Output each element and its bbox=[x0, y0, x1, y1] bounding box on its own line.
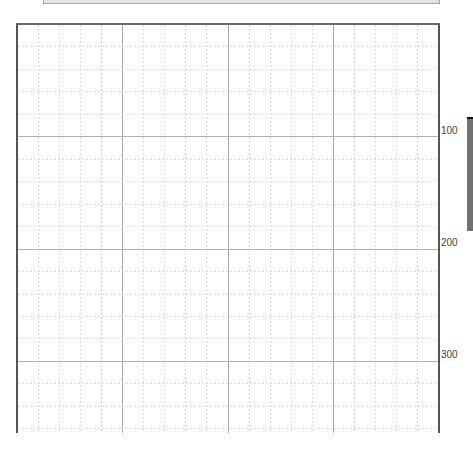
grid-minor-vline bbox=[417, 25, 418, 433]
grid-minor-vline bbox=[375, 25, 376, 433]
grid-minor-hline bbox=[18, 406, 438, 407]
grid-minor-hline bbox=[18, 69, 438, 70]
grid-major-hline bbox=[18, 136, 438, 137]
grid-minor-hline bbox=[18, 428, 438, 429]
grid-minor-vline bbox=[101, 25, 102, 433]
grid-minor-hline bbox=[18, 271, 438, 272]
top-toolbar-bar bbox=[43, 0, 440, 4]
grid-minor-hline bbox=[18, 46, 438, 47]
grid-minor-hline bbox=[18, 114, 438, 115]
grid-minor-hline bbox=[18, 204, 438, 205]
grid-minor-vline bbox=[270, 25, 271, 433]
grid-minor-vline bbox=[249, 25, 250, 433]
grid-minor-vline bbox=[206, 25, 207, 433]
grid-minor-vline bbox=[143, 25, 144, 433]
grid-minor-hline bbox=[18, 226, 438, 227]
grid-minor-vline bbox=[80, 25, 81, 433]
ruler-label-100: 100 bbox=[441, 125, 458, 137]
grid-minor-hline bbox=[18, 316, 438, 317]
grid-minor-vline bbox=[291, 25, 292, 433]
ruler-label-200: 200 bbox=[441, 237, 458, 249]
grid-minor-vline bbox=[396, 25, 397, 433]
grid-minor-hline bbox=[18, 338, 438, 339]
canvas-grid[interactable] bbox=[16, 23, 440, 433]
grid-minor-hline bbox=[18, 383, 438, 384]
grid-major-vline bbox=[333, 25, 334, 433]
grid-minor-vline bbox=[38, 25, 39, 433]
grid-major-vline bbox=[122, 25, 123, 433]
grid-minor-hline bbox=[18, 91, 438, 92]
grid-minor-vline bbox=[164, 25, 165, 433]
grid-minor-vline bbox=[185, 25, 186, 433]
grid-minor-vline bbox=[312, 25, 313, 433]
grid-minor-hline bbox=[18, 181, 438, 182]
grid-minor-vline bbox=[354, 25, 355, 433]
grid-minor-hline bbox=[18, 294, 438, 295]
grid-major-hline bbox=[18, 249, 438, 250]
ruler-label-300: 300 bbox=[441, 349, 458, 361]
grid-minor-hline bbox=[18, 159, 438, 160]
side-panel-tab[interactable] bbox=[467, 117, 473, 231]
grid-major-hline bbox=[18, 361, 438, 362]
grid-minor-vline bbox=[59, 25, 60, 433]
grid-major-vline bbox=[228, 25, 229, 433]
